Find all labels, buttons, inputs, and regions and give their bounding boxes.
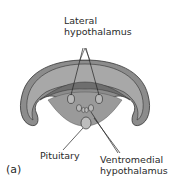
leader-vmh-2 (94, 118, 120, 153)
vmh-nucleus-right (88, 105, 93, 112)
label-ventromedial-line1: Ventromedial (100, 154, 163, 165)
leader-pituitary (63, 128, 83, 150)
lateral-nucleus-left (68, 95, 75, 104)
label-lateral-hypothalamus-line2: hypothalamus (64, 26, 132, 37)
panel-label: (a) (6, 164, 21, 175)
vmh-nucleus-mid-right (85, 107, 89, 112)
vmh-nucleus-left (76, 105, 81, 112)
label-pituitary: Pituitary (40, 150, 80, 161)
pituitary-gland (81, 117, 91, 129)
label-lateral-hypothalamus-line1: Lateral (64, 15, 97, 26)
label-ventromedial-line2: hypothalamus (100, 165, 168, 176)
lateral-nucleus-right (96, 95, 103, 104)
